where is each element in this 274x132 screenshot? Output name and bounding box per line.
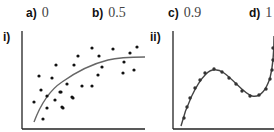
data-point (80, 84, 83, 87)
data-point (45, 94, 48, 97)
data-point (72, 63, 75, 66)
data-point (188, 96, 191, 99)
data-point (61, 106, 64, 109)
panel-ii-points (182, 46, 274, 119)
data-point (45, 106, 48, 109)
data-point (271, 58, 274, 61)
data-point (37, 74, 40, 77)
data-point (32, 100, 35, 103)
data-point (39, 88, 42, 91)
data-point (132, 68, 135, 71)
data-point (182, 116, 185, 119)
panel-i-axes (22, 31, 145, 129)
data-point (121, 71, 124, 74)
data-point (90, 46, 93, 49)
data-point (50, 76, 53, 79)
data-point (240, 89, 243, 92)
data-point (111, 47, 114, 50)
data-point (270, 68, 273, 71)
data-point (257, 93, 260, 96)
data-point (193, 86, 196, 89)
data-point (268, 77, 271, 80)
data-point (227, 76, 230, 79)
data-point (212, 67, 215, 70)
panel-ii-axes (173, 31, 274, 129)
data-point (203, 71, 206, 74)
data-point (185, 105, 188, 108)
data-point (198, 78, 201, 81)
data-point (128, 51, 131, 54)
plots-canvas (0, 0, 274, 132)
data-point (248, 94, 251, 97)
data-point (220, 70, 223, 73)
data-point (53, 98, 56, 101)
data-point (90, 84, 93, 87)
data-point (234, 82, 237, 85)
data-point (97, 54, 100, 57)
data-point (54, 63, 57, 66)
data-point (71, 96, 74, 99)
panel-i-fit-curve (34, 57, 145, 122)
data-point (76, 54, 79, 57)
data-point (271, 46, 274, 49)
data-point (65, 82, 68, 85)
data-point (41, 117, 44, 120)
data-point (96, 73, 99, 76)
data-point (58, 90, 61, 93)
data-point (135, 45, 138, 48)
data-point (100, 65, 103, 68)
data-point (264, 87, 267, 90)
panel-ii-curve (181, 36, 274, 126)
data-point (122, 60, 125, 63)
panel-i-scatter-points (32, 45, 138, 120)
